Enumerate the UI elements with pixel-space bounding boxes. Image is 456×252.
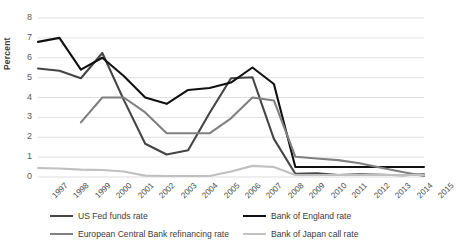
legend-label: European Central Bank refinancing rate bbox=[78, 229, 229, 239]
legend-swatch-icon bbox=[243, 233, 266, 235]
series-line-2 bbox=[81, 98, 424, 177]
legend-label: Bank of Japan call rate bbox=[271, 229, 358, 239]
legend-item[interactable]: European Central Bank refinancing rate bbox=[50, 229, 229, 239]
legend-item[interactable]: Bank of Japan call rate bbox=[243, 229, 358, 239]
legend-swatch-icon bbox=[50, 215, 73, 217]
legend-swatch-icon bbox=[243, 215, 266, 217]
legend-swatch-icon bbox=[50, 233, 73, 235]
legend-label: Bank of England rate bbox=[271, 211, 351, 221]
series-line-1 bbox=[38, 38, 424, 167]
legend-item[interactable]: US Fed funds rate bbox=[50, 211, 148, 221]
legend-label: US Fed funds rate bbox=[78, 211, 148, 221]
legend-item[interactable]: Bank of England rate bbox=[243, 211, 351, 221]
x-axis-tick: 2015 bbox=[436, 181, 455, 200]
